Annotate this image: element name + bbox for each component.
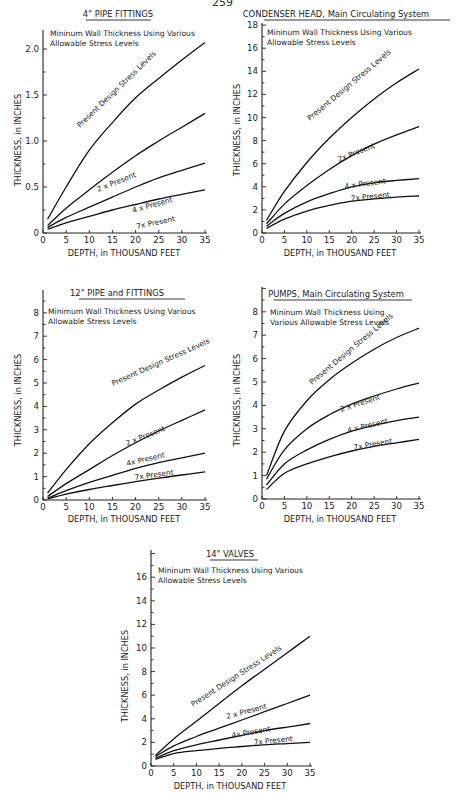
x-tick-label: 30 [391, 501, 402, 511]
chart-subtitle: Minimum Wall Thickness Using Various [48, 307, 195, 316]
y-tick-label: 4 [34, 401, 39, 411]
series-label: 2 x Present [339, 392, 381, 413]
x-tick-label: 35 [200, 235, 211, 245]
chart-title: 4" PIPE FITTINGS [83, 9, 153, 19]
y-tick-label: 16 [247, 43, 258, 53]
series-label: Present Design Stress Levels [306, 47, 393, 122]
y-axis-label: THICKNESS, in INCHES [232, 84, 242, 177]
y-tick-label: 2 [253, 205, 258, 215]
x-tick-label: 15 [214, 768, 225, 778]
series-line [267, 127, 420, 224]
charts-figure: 00.51.01.52.005101520253035DEPTH, in THO… [0, 0, 469, 812]
series-label: 4 x Present [344, 176, 386, 191]
x-tick-label: 20 [346, 235, 357, 245]
chart-subtitle: Allowable Stress Levels [158, 576, 247, 585]
x-axis-label: DEPTH, in THOUSAND FEET [284, 248, 397, 258]
y-tick-label: 0.5 [25, 182, 39, 192]
y-tick-label: 4 [253, 182, 258, 192]
x-tick-label: 10 [191, 768, 202, 778]
series-label: 2 x Present [124, 424, 166, 448]
x-tick-label: 0 [40, 502, 45, 512]
series-label: 7x Present [350, 190, 390, 203]
chart-title: PUMPS, Main Circulating System [268, 289, 404, 299]
y-tick-label: 6 [34, 355, 39, 365]
y-tick-label: 0 [253, 228, 258, 238]
chart-c1: 00.51.01.52.005101520253035DEPTH, in THO… [13, 9, 210, 258]
y-tick-label: 0 [34, 495, 39, 505]
y-tick-label: 14 [136, 596, 147, 606]
x-axis-label: DEPTH, in THOUSAND FEET [68, 248, 181, 258]
series-label: 7x Present [353, 436, 393, 452]
x-tick-label: 30 [391, 235, 402, 245]
chart-title: CONDENSER HEAD, Main Circulating System [243, 9, 429, 19]
chart-subtitle: Allowable Stress Levels [267, 38, 356, 47]
y-tick-label: 6 [253, 354, 258, 364]
x-tick-label: 25 [369, 235, 380, 245]
series-line [48, 366, 205, 494]
y-tick-label: 10 [136, 643, 147, 653]
x-tick-label: 5 [171, 768, 176, 778]
x-tick-label: 20 [346, 501, 357, 511]
y-tick-label: 16 [136, 572, 147, 582]
series-label: 2 x Present [95, 170, 137, 194]
x-tick-label: 25 [153, 235, 164, 245]
y-tick-label: 18 [247, 20, 258, 30]
y-tick-label: 1.0 [25, 136, 39, 146]
y-tick-label: 8 [253, 307, 258, 317]
x-tick-label: 35 [414, 235, 425, 245]
y-tick-label: 8 [34, 308, 39, 318]
x-axis-label: DEPTH, in THOUSAND FEET [68, 514, 181, 524]
chart-c3: 01234567805101520253035DEPTH, in THOUSAN… [13, 288, 211, 524]
x-tick-label: 0 [259, 235, 264, 245]
series-line [156, 742, 311, 759]
y-tick-label: 4 [253, 400, 258, 410]
y-tick-label: 8 [253, 136, 258, 146]
y-tick-label: 0 [34, 228, 39, 238]
y-tick-label: 6 [253, 159, 258, 169]
series-label: 7x Present [134, 468, 174, 482]
x-tick-label: 15 [324, 501, 335, 511]
y-axis-label: THICKNESS, in INCHES [13, 354, 23, 447]
series-line [48, 113, 205, 225]
y-tick-label: 14 [247, 66, 258, 76]
x-tick-label: 30 [176, 235, 187, 245]
series-label: 2x Present [336, 141, 376, 164]
x-tick-label: 10 [84, 502, 95, 512]
x-axis-label: DEPTH, in THOUSAND FEET [174, 781, 287, 791]
series-label: Present Design Stress Levels [110, 336, 211, 388]
chart-c4: 01234567805101520253035DEPTH, in THOUSAN… [232, 287, 424, 524]
series-label: Present Design Stress Levels [189, 643, 283, 709]
y-tick-label: 1 [253, 471, 258, 481]
chart-subtitle: Mininum Wall Thickness Using Various [267, 28, 412, 37]
y-tick-label: 4 [142, 714, 147, 724]
series-label: 7x Present [253, 734, 293, 747]
x-tick-label: 25 [259, 768, 270, 778]
y-tick-label: 0 [253, 494, 258, 504]
series-line [48, 472, 205, 499]
x-tick-label: 15 [324, 235, 335, 245]
series-label: 4 x Present [346, 416, 389, 435]
y-tick-label: 6 [142, 690, 147, 700]
y-tick-label: 7 [253, 330, 258, 340]
chart-title: 14" VALVES [206, 549, 254, 559]
y-tick-label: 5 [34, 378, 39, 388]
series-line [267, 196, 420, 228]
chart-subtitle: Mininum Wall Thickness Using Various [50, 29, 195, 38]
x-tick-label: 5 [63, 502, 68, 512]
x-tick-label: 35 [200, 502, 211, 512]
y-tick-label: 12 [247, 89, 258, 99]
series-line [48, 190, 205, 230]
x-tick-label: 25 [153, 502, 164, 512]
chart-c5: 024681012141605101520253035DEPTH, in THO… [120, 549, 315, 791]
x-tick-label: 25 [369, 501, 380, 511]
x-tick-label: 30 [282, 768, 293, 778]
chart-c2: 02468101214161805101520253035DEPTH, in T… [232, 9, 450, 258]
y-tick-label: 0 [142, 761, 147, 771]
x-tick-label: 10 [301, 501, 312, 511]
x-tick-label: 20 [236, 768, 247, 778]
chart-subtitle: Allowable Stress Levels [50, 39, 139, 48]
x-tick-label: 0 [259, 501, 264, 511]
y-tick-label: 7 [34, 331, 39, 341]
x-tick-label: 15 [107, 502, 118, 512]
chart-subtitle: Mininum Wall Thickness Using Various [158, 566, 303, 575]
